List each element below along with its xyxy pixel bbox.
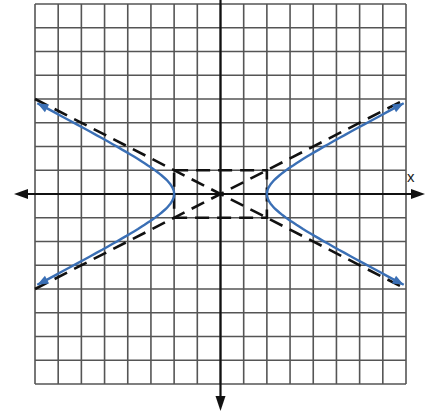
y-axis-down-arrow-icon (216, 396, 226, 411)
axes (14, 0, 425, 411)
x-axis-label: x (407, 168, 415, 185)
hyperbola-graph (0, 0, 427, 417)
x-axis-left-arrow-icon (14, 189, 28, 199)
x-axis-right-arrow-icon (411, 189, 425, 199)
